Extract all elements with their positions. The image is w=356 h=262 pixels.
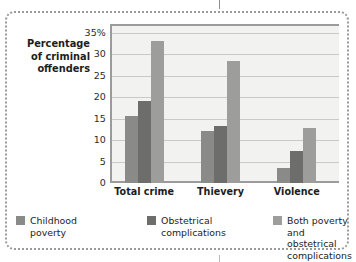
legend-item[interactable]: Both poverty and obstetrical complicatio… (273, 215, 352, 261)
bar (227, 61, 240, 183)
bottom-crop-tick (219, 255, 220, 262)
bar-series-layer (110, 24, 339, 183)
bar (201, 131, 214, 183)
y-axis-tick-label: 5 (66, 157, 106, 167)
bar (125, 116, 138, 183)
y-axis-tick-label: 30 (66, 49, 106, 59)
legend-swatch-icon (147, 216, 156, 225)
plot-area (110, 24, 339, 183)
y-axis-tick-label: 15 (66, 114, 106, 124)
y-axis-tick-label: 10 (66, 135, 106, 145)
chart-legend: Childhood povertyObstetrical complicatio… (16, 215, 342, 245)
legend-label: Both poverty and obstetrical complicatio… (287, 215, 352, 261)
top-crop-tick (219, 0, 220, 9)
chart-figure: Percentage of criminal offenders 0510152… (0, 0, 356, 262)
bar (277, 168, 290, 183)
legend-swatch-icon (273, 216, 282, 225)
legend-swatch-icon (16, 216, 25, 225)
y-axis-tick-label: 25 (66, 71, 106, 81)
legend-label: Obstetrical complications (161, 215, 226, 238)
legend-label: Childhood poverty (30, 215, 77, 238)
y-axis-tick-labels: 05101520253035% (64, 24, 106, 183)
y-axis-tick-label: 35% (66, 28, 106, 38)
x-axis-tick-label: Violence (247, 186, 347, 197)
bar (290, 151, 303, 183)
bar (151, 41, 164, 183)
legend-item[interactable]: Childhood poverty (16, 215, 77, 238)
x-axis-tick-labels: Total crimeThieveryViolence (110, 186, 339, 200)
bar (303, 128, 316, 183)
y-axis-line (110, 24, 112, 183)
y-axis-tick-label: 20 (66, 92, 106, 102)
bar (214, 126, 227, 183)
bar (138, 101, 151, 183)
legend-item[interactable]: Obstetrical complications (147, 215, 226, 238)
